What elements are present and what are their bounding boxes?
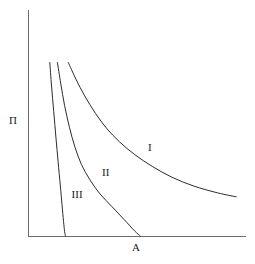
- y-axis-label: Π: [9, 115, 17, 126]
- curve-III-path: [50, 63, 66, 236]
- curve-label-III: III: [72, 189, 83, 200]
- x-axis-label: A: [132, 242, 140, 253]
- figure-canvas: Π A I II III: [0, 0, 255, 264]
- axes-group: [28, 10, 246, 236]
- curve-I-path: [68, 63, 236, 197]
- curve-label-II: II: [102, 167, 109, 178]
- plot-area: [0, 0, 255, 264]
- curves-group: [50, 63, 236, 236]
- curve-label-I: I: [148, 142, 152, 153]
